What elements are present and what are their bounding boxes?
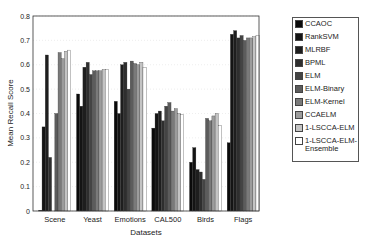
- bar: [117, 114, 120, 212]
- y-axis-label: Mean Recall Score: [6, 79, 15, 147]
- bar: [171, 111, 174, 211]
- bar: [121, 65, 124, 211]
- legend-swatch: [295, 46, 303, 54]
- bar: [181, 115, 184, 211]
- bar: [168, 103, 171, 211]
- legend-swatch: [295, 20, 303, 28]
- bar: [89, 75, 92, 212]
- bar: [237, 38, 240, 211]
- bar: [58, 53, 61, 211]
- bar: [80, 106, 83, 211]
- legend-label: ELM: [305, 72, 320, 80]
- bar-group-cal500: [152, 103, 184, 211]
- bar-group-flags: [227, 31, 259, 211]
- legend-label: ELM-Binary: [305, 85, 344, 93]
- bar: [86, 62, 89, 211]
- bar-groups: [39, 31, 259, 211]
- bar: [250, 38, 253, 211]
- bar: [202, 179, 205, 211]
- bar: [45, 55, 48, 211]
- bar: [42, 127, 45, 211]
- y-tick-label: 0.4: [20, 110, 30, 117]
- legend-label: RankSVM: [305, 33, 339, 41]
- bar-group-yeast: [77, 62, 109, 211]
- bar: [196, 170, 199, 211]
- bar: [212, 116, 215, 211]
- bar: [230, 34, 233, 211]
- bar: [253, 37, 256, 211]
- x-tick-label: CAL500: [154, 215, 181, 224]
- bar: [61, 59, 64, 211]
- bar: [99, 71, 102, 211]
- bar: [152, 128, 155, 211]
- legend-label: ELM-Kernel: [305, 98, 345, 106]
- bar: [177, 114, 180, 212]
- legend-swatch: [295, 137, 303, 145]
- legend-label: CCAOC: [305, 20, 332, 28]
- y-tick-label: 0.1: [20, 183, 30, 190]
- legend-item: 1-LSCCA-ELM-Ensemble: [295, 137, 358, 159]
- bar: [155, 114, 158, 212]
- legend-swatch: [295, 72, 303, 80]
- bar-group-scene: [39, 50, 71, 211]
- x-tick-label: Scene: [44, 215, 65, 224]
- bar: [209, 121, 212, 211]
- x-tick-label: Birds: [197, 215, 214, 224]
- x-tick-label: Flags: [234, 215, 253, 224]
- x-tick-label: Yeast: [83, 215, 102, 224]
- legend-swatch: [295, 124, 303, 132]
- bar: [124, 62, 127, 211]
- y-tick-label: 0.2: [20, 159, 30, 166]
- y-tick-label: 0: [26, 208, 30, 215]
- bar: [165, 106, 168, 211]
- bar: [130, 61, 133, 211]
- x-tick-label: Emotions: [115, 215, 147, 224]
- bar: [77, 94, 80, 211]
- legend-swatch: [295, 59, 303, 67]
- bar: [206, 118, 209, 211]
- legend: CCAOCRankSVMMLRBFBPMLELMELM-BinaryELM-Ke…: [292, 17, 359, 162]
- bar: [234, 31, 237, 211]
- legend-swatch: [295, 111, 303, 119]
- y-tick-label: 0.5: [20, 86, 30, 93]
- legend-label: 1-LSCCA-ELM: [305, 124, 355, 132]
- bar: [199, 172, 202, 211]
- bar: [105, 70, 108, 211]
- bar: [193, 148, 196, 211]
- bar: [240, 36, 243, 212]
- y-tick-label: 0.7: [20, 37, 30, 44]
- legend-swatch: [295, 98, 303, 106]
- bar: [133, 64, 136, 211]
- bar: [158, 111, 161, 211]
- bar: [64, 51, 67, 211]
- legend-swatch: [295, 33, 303, 41]
- bar: [161, 121, 164, 211]
- bar: [143, 67, 146, 211]
- bar: [55, 114, 58, 212]
- x-axis-ticks: SceneYeastEmotionsCAL500BirdsFlags: [44, 215, 252, 224]
- y-tick-label: 0.3: [20, 134, 30, 141]
- bar: [93, 71, 96, 211]
- bar: [96, 71, 99, 211]
- bar: [137, 65, 140, 211]
- bar: [215, 114, 218, 212]
- y-tick-label: 0.6: [20, 61, 30, 68]
- bar: [48, 157, 51, 211]
- bar: [68, 50, 71, 211]
- bar: [190, 162, 193, 211]
- bar-group-emotions: [114, 61, 146, 211]
- bar: [243, 40, 246, 211]
- legend-label: 1-LSCCA-ELM-Ensemble: [305, 137, 357, 153]
- bar: [114, 101, 117, 211]
- bar: [140, 62, 143, 211]
- bar: [227, 143, 230, 211]
- bar-group-birds: [190, 114, 222, 212]
- y-axis-ticks: 00.10.20.30.40.50.60.70.8: [20, 13, 30, 215]
- legend-label: BPML: [305, 59, 325, 67]
- legend-label: CCAELM: [305, 111, 336, 119]
- bar: [83, 67, 86, 211]
- bar: [127, 89, 130, 211]
- bar: [218, 126, 221, 211]
- bar: [102, 70, 105, 211]
- legend-swatch: [295, 85, 303, 93]
